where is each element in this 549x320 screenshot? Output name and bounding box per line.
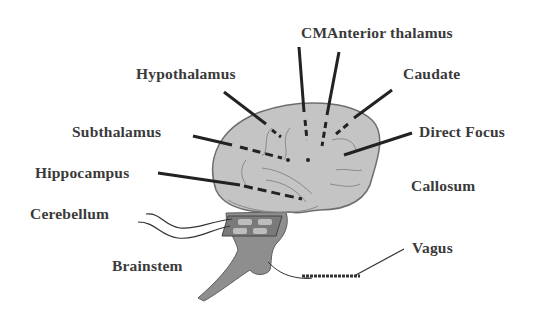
label-direct-focus: Direct Focus: [419, 124, 505, 140]
label-hypothalamus: Hypothalamus: [136, 66, 236, 82]
label-callosum: Callosum: [411, 178, 475, 194]
cerebrum-shape: [213, 103, 380, 213]
label-brainstem: Brainstem: [112, 258, 183, 274]
label-subthalamus: Subthalamus: [72, 124, 161, 140]
label-vagus: Vagus: [412, 240, 453, 256]
label-cm: CM: [301, 25, 327, 41]
label-hippocampus: Hippocampus: [35, 165, 129, 181]
label-caudate: Caudate: [403, 66, 460, 82]
brain-stimulation-diagram: CM Anterior thalamus Hypothalamus Caudat…: [0, 0, 549, 320]
label-anterior-thalamus: Anterior thalamus: [327, 25, 453, 41]
label-cerebellum: Cerebellum: [30, 206, 109, 222]
brain-illustration: [0, 0, 549, 320]
